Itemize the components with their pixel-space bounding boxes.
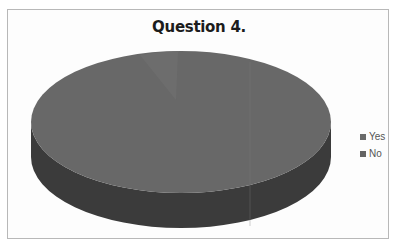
pie-slice-no[interactable]	[31, 51, 331, 193]
legend-swatch-yes	[360, 134, 366, 140]
legend-label-yes: Yes	[369, 131, 385, 142]
legend-label-no: No	[369, 148, 382, 159]
legend-item-no[interactable]: No	[360, 145, 385, 162]
legend-item-yes[interactable]: Yes	[360, 128, 385, 145]
pie-chart-3d	[0, 0, 398, 252]
legend-swatch-no	[360, 151, 366, 157]
chart-legend: Yes No	[360, 128, 385, 162]
